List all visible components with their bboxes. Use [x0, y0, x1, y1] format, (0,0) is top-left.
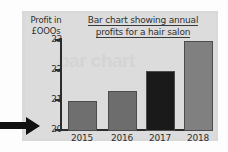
- y-axis-label-21: 21: [40, 94, 62, 104]
- y-axis-label-23-wrap: 23: [28, 34, 62, 45]
- y-axis-line: [60, 38, 62, 131]
- y-axis-title-line-1: Profit in: [24, 15, 68, 26]
- y-axis-label-22-wrap: 22: [28, 64, 62, 75]
- chart-screenshot: bar chart Profit in £OOOs Bar chart show…: [0, 0, 228, 152]
- bar-2015: [68, 101, 97, 131]
- y-axis-label-23: 23: [40, 34, 62, 44]
- chart-title-line-1-text: Bar chart showing annual: [88, 15, 198, 26]
- y-axis-label-22: 22: [40, 64, 62, 74]
- bar-2017: [146, 71, 175, 131]
- bar-2018: [184, 41, 213, 131]
- chart-title: Bar chart showing annual profits for a h…: [72, 14, 214, 38]
- y-axis-label-21-wrap: 21: [28, 94, 62, 105]
- bar-2016: [108, 91, 137, 131]
- y-axis-title: Profit in £OOOs: [24, 15, 68, 36]
- annotation-arrow-icon: [0, 116, 52, 138]
- x-axis-label-2018: 2018: [181, 133, 215, 143]
- x-axis-label-2016: 2016: [105, 133, 139, 143]
- chart-title-line-2-text: profits for a hair salon: [96, 27, 190, 38]
- x-axis-label-2015: 2015: [65, 133, 99, 143]
- x-axis-label-2017: 2017: [143, 133, 177, 143]
- chart-title-line-2: profits for a hair salon: [72, 26, 214, 38]
- chart-title-line-1: Bar chart showing annual: [72, 14, 214, 26]
